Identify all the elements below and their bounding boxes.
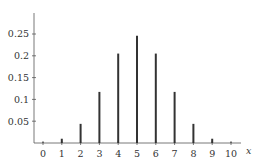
x-tick-label: 4 (115, 148, 121, 159)
x-tick-label: 10 (225, 148, 237, 159)
y-tick-label: 0.15 (8, 72, 29, 83)
x-tick-label: 3 (96, 148, 102, 159)
y-tick-label: 0.1 (14, 94, 29, 105)
binomial-stem-chart: 0.050.10.150.20.25012345678910x (0, 0, 258, 167)
x-tick-label: 1 (59, 148, 65, 159)
y-tick-label: 0.05 (8, 116, 29, 127)
x-tick-label: 7 (172, 148, 178, 159)
x-tick-label: 6 (153, 148, 159, 159)
y-tick-label: 0.2 (14, 50, 29, 61)
x-tick-label: 0 (40, 148, 46, 159)
y-tick-label: 0.25 (8, 28, 29, 39)
x-axis-label: x (246, 145, 252, 156)
x-tick-label: 5 (134, 148, 140, 159)
x-tick-label: 2 (78, 148, 84, 159)
x-tick-label: 9 (209, 148, 215, 159)
x-tick-label: 8 (190, 148, 196, 159)
